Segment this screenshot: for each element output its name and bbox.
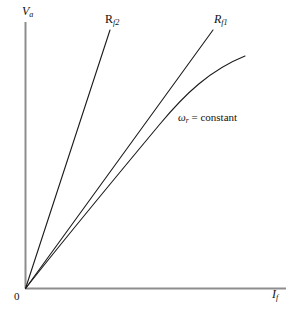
magnetization-curve-figure: Va If 0 Rf2 Rf1 ωr = constant	[0, 0, 301, 329]
y-axis-subscript: a	[29, 10, 33, 19]
omega-equation-text: = constant	[191, 111, 237, 123]
rf2-label: Rf2	[105, 13, 119, 27]
rf2-symbol: R	[105, 12, 113, 26]
omega-constant-annotation: ωr = constant	[178, 112, 237, 125]
x-axis-label: If	[272, 288, 278, 302]
rf2-subscript: f2	[113, 18, 119, 27]
rf1-line	[26, 30, 214, 289]
plot-canvas	[0, 0, 301, 329]
y-axis-label: Va	[22, 5, 33, 19]
rf2-line	[26, 30, 111, 289]
magnetization-curve	[26, 56, 246, 289]
origin-label: 0	[14, 291, 20, 302]
rf1-label: Rf1	[214, 13, 228, 27]
rf1-subscript: f1	[221, 18, 227, 27]
x-axis-subscript: f	[276, 293, 278, 302]
omega-symbol: ω	[178, 111, 186, 123]
